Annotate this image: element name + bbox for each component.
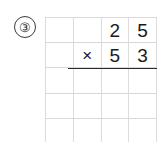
grid-cell-r3c3[interactable]: [129, 94, 157, 119]
grid-cell-r0c1[interactable]: [74, 18, 102, 43]
grid-cell-r0c3[interactable]: 5: [129, 18, 157, 43]
grid-cell-r0c0[interactable]: [46, 18, 74, 43]
worksheet-problem: ③ 2 5 × 5 3: [0, 0, 161, 142]
grid-row: [46, 119, 157, 142]
grid-cell-r2c3[interactable]: [129, 68, 157, 93]
grid-row: [46, 68, 157, 93]
grid-cell-r4c3[interactable]: [129, 119, 157, 142]
grid-cell-r0c2[interactable]: 2: [102, 18, 130, 43]
grid-cell-r3c0[interactable]: [46, 94, 74, 119]
calculation-grid: 2 5 × 5 3: [45, 17, 157, 142]
grid-row: × 5 3: [46, 43, 157, 68]
grid-cell-r1c2[interactable]: 5: [102, 43, 130, 68]
grid-cell-r1c0[interactable]: [46, 43, 74, 68]
grid-cell-r4c1[interactable]: [74, 119, 102, 142]
answer-rule-line: [68, 68, 157, 70]
grid-row: [46, 94, 157, 119]
grid-cell-r1c3[interactable]: 3: [129, 43, 157, 68]
problem-number-badge: ③: [14, 16, 36, 38]
grid-cell-r2c0[interactable]: [46, 68, 74, 93]
grid-cell-r2c1[interactable]: [74, 68, 102, 93]
grid-cell-r2c2[interactable]: [102, 68, 130, 93]
multiplication-operator-cell[interactable]: ×: [74, 43, 102, 68]
grid-cell-r4c2[interactable]: [102, 119, 130, 142]
grid-row: 2 5: [46, 18, 157, 43]
grid-cell-r4c0[interactable]: [46, 119, 74, 142]
grid-cell-r3c2[interactable]: [102, 94, 130, 119]
grid-cell-r3c1[interactable]: [74, 94, 102, 119]
